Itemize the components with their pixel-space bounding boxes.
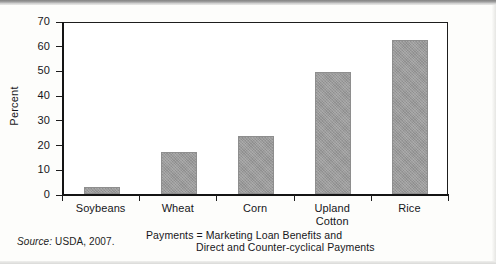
y-axis-title: Percent: [8, 76, 20, 136]
x-tick-end-5: [448, 195, 449, 201]
chart-figure: Percent 010203040506070 SoybeansWheatCor…: [0, 0, 496, 264]
y-axis-line: [62, 22, 64, 196]
x-tick-3: [294, 195, 295, 201]
y-tick-label-50: 50: [10, 65, 50, 76]
x-tick-2: [216, 195, 217, 201]
caption-line-2: Direct and Counter-cyclical Payments: [146, 241, 375, 253]
y-tick-label-70: 70: [10, 16, 50, 27]
y-tick-label-0: 0: [10, 189, 50, 200]
source-label: Source:: [17, 236, 52, 247]
source-value: USDA, 2007.: [55, 236, 114, 247]
x-tick-end-0: [62, 195, 63, 201]
y-tick-label-60: 60: [10, 41, 50, 52]
y-tick-label-10: 10: [10, 164, 50, 175]
x-axis-label-rice: Rice: [354, 202, 464, 215]
y-tick-label-20: 20: [10, 140, 50, 151]
bar-upland-cotton: [315, 72, 351, 194]
x-tick-1: [139, 195, 140, 201]
bar-corn: [238, 136, 274, 194]
y-tick-label-40: 40: [10, 90, 50, 101]
chart-caption: Payments = Marketing Loan Benefits and D…: [146, 229, 375, 253]
y-tick-label-30: 30: [10, 115, 50, 126]
source-note: Source: USDA, 2007.: [17, 236, 115, 247]
x-axis-line: [62, 194, 449, 196]
bar-wheat: [161, 152, 197, 194]
caption-line-1: Payments = Marketing Loan Benefits and: [146, 229, 342, 241]
x-tick-4: [371, 195, 372, 201]
bar-rice: [392, 40, 428, 194]
plot-area: [62, 22, 448, 195]
scan-right-edge: [492, 5, 496, 261]
scan-top-edge: [0, 0, 496, 5]
bar-soybeans: [84, 187, 120, 194]
